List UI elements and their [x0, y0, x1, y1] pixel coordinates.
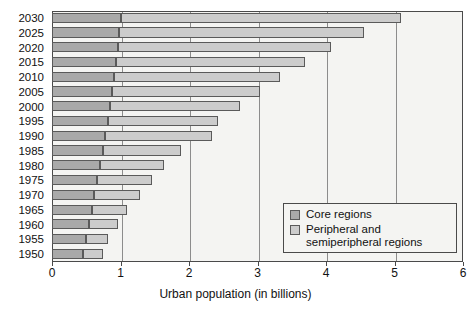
bar-row — [52, 85, 463, 100]
bar-segment-core — [52, 13, 121, 23]
y-axis-label: 2020 — [18, 41, 44, 56]
bar-segment-core — [52, 219, 89, 229]
x-tick-label: 2 — [186, 266, 193, 280]
y-axis-label: 1995 — [18, 114, 44, 129]
y-axis-label: 1970 — [18, 188, 44, 203]
x-tick-label: 1 — [117, 266, 124, 280]
bar-segment-peripheral — [86, 234, 108, 244]
stacked-bar-chart: 2030202520202015201020052000199519901985… — [0, 0, 471, 315]
bar-segment-peripheral — [100, 160, 164, 170]
bar-row — [52, 144, 463, 159]
y-axis-label: 2025 — [18, 26, 44, 41]
y-axis-label: 1950 — [18, 247, 44, 262]
bar-segment-peripheral — [114, 72, 280, 82]
x-tick-label: 0 — [49, 266, 56, 280]
bar-segment-core — [52, 86, 112, 96]
y-axis-label: 2005 — [18, 85, 44, 100]
bar-segment-peripheral — [110, 101, 239, 111]
peripheral-swatch-icon — [290, 225, 300, 235]
x-tick-label: 3 — [254, 266, 261, 280]
y-axis-label: 1960 — [18, 218, 44, 233]
bar-segment-peripheral — [92, 205, 128, 215]
bar-segment-core — [52, 57, 116, 67]
y-axis-label: 1985 — [18, 144, 44, 159]
bar-segment-core — [52, 27, 119, 37]
bar-row — [52, 129, 463, 144]
y-axis-label: 1980 — [18, 159, 44, 174]
x-axis-ticks: 0123456 — [52, 262, 463, 282]
bar-segment-core — [52, 160, 100, 170]
bar-row — [52, 55, 463, 70]
y-axis-label: 2030 — [18, 11, 44, 26]
x-axis-title: Urban population (in billions) — [0, 287, 471, 301]
bar-row — [52, 11, 463, 26]
y-axis-tick-labels: 2030202520202015201020052000199519901985… — [0, 11, 48, 262]
bar-segment-peripheral — [112, 86, 259, 96]
bar-row — [52, 188, 463, 203]
x-tick-label: 4 — [323, 266, 330, 280]
y-axis-label: 2015 — [18, 55, 44, 70]
bar-segment-peripheral — [94, 190, 140, 200]
legend-item-peripheral: Peripheral and semiperipheral regions — [290, 223, 450, 249]
bar-segment-core — [52, 101, 110, 111]
bar-segment-core — [52, 72, 114, 82]
bar-row — [52, 41, 463, 56]
bar-row — [52, 100, 463, 115]
bar-segment-peripheral — [118, 42, 331, 52]
y-axis-label: 1990 — [18, 129, 44, 144]
bar-segment-core — [52, 249, 83, 259]
bar-segment-peripheral — [108, 116, 218, 126]
y-axis-label: 2010 — [18, 70, 44, 85]
y-axis-label: 1965 — [18, 203, 44, 218]
y-axis-label: 2000 — [18, 100, 44, 115]
core-swatch-icon — [290, 210, 300, 220]
bar-segment-core — [52, 190, 94, 200]
bar-segment-peripheral — [83, 249, 104, 259]
bar-segment-core — [52, 145, 103, 155]
bar-row — [52, 114, 463, 129]
bar-segment-core — [52, 42, 118, 52]
legend-label-core: Core regions — [306, 208, 372, 221]
bar-segment-core — [52, 131, 105, 141]
x-tick-label: 5 — [391, 266, 398, 280]
bar-row — [52, 159, 463, 174]
bar-segment-peripheral — [89, 219, 118, 229]
bar-row — [52, 26, 463, 41]
legend-item-core: Core regions — [290, 208, 450, 221]
legend: Core regions Peripheral and semiperipher… — [283, 203, 457, 253]
bar-segment-peripheral — [97, 175, 152, 185]
bar-segment-core — [52, 175, 97, 185]
y-axis-label: 1955 — [18, 232, 44, 247]
y-axis-label: 1975 — [18, 173, 44, 188]
legend-label-peripheral: Peripheral and semiperipheral regions — [306, 223, 422, 249]
bar-segment-peripheral — [121, 13, 402, 23]
x-tick-label: 6 — [460, 266, 467, 280]
bar-segment-peripheral — [103, 145, 182, 155]
bar-segment-core — [52, 234, 86, 244]
bar-segment-peripheral — [116, 57, 304, 67]
bar-segment-peripheral — [119, 27, 364, 37]
bar-row — [52, 173, 463, 188]
bar-segment-peripheral — [105, 131, 212, 141]
bar-segment-core — [52, 116, 108, 126]
bar-row — [52, 70, 463, 85]
bar-segment-core — [52, 205, 92, 215]
